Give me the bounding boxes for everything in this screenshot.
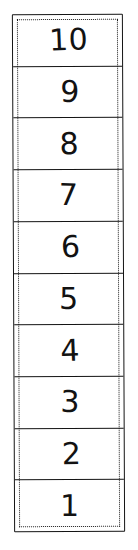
ladder-row[interactable]: 8 <box>13 118 122 170</box>
ladder-row[interactable]: 3 <box>14 377 123 429</box>
ladder-row[interactable]: 10 <box>13 15 122 67</box>
ladder-row[interactable]: 9 <box>13 66 122 118</box>
ladder-row[interactable]: 2 <box>15 428 124 480</box>
ladder-row[interactable]: 4 <box>14 325 123 377</box>
ladder-row-label: 1 <box>60 491 80 521</box>
ladder-row-label: 8 <box>59 129 79 159</box>
ladder-row-label: 6 <box>60 232 81 263</box>
ladder-row-label: 5 <box>59 284 79 314</box>
ladder-row-label: 10 <box>48 25 88 57</box>
canvas: 10 9 8 7 6 5 4 3 <box>0 0 138 550</box>
ladder-row[interactable]: 1 <box>15 480 124 531</box>
ladder-row[interactable]: 6 <box>14 222 123 274</box>
ladder-row-label: 7 <box>58 180 79 211</box>
ladder-row-label: 4 <box>59 335 80 366</box>
ladder-row-label: 2 <box>61 439 81 469</box>
ladder-rows: 10 9 8 7 6 5 4 3 <box>13 15 124 531</box>
ladder-row-label: 3 <box>60 387 80 417</box>
number-ladder: 10 9 8 7 6 5 4 3 <box>12 14 125 532</box>
ladder-row-label: 9 <box>60 77 80 107</box>
ladder-row[interactable]: 7 <box>14 170 123 222</box>
ladder-row[interactable]: 5 <box>14 273 123 325</box>
